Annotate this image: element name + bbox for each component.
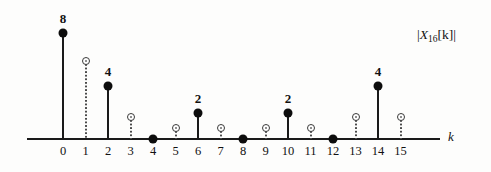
- data-point-value-label: 4: [375, 65, 382, 78]
- x-tick-label: 5: [172, 145, 178, 158]
- x-tick-label: 3: [127, 145, 133, 158]
- dotted-stem: [310, 131, 312, 139]
- filled-circle-marker: [374, 82, 383, 91]
- dotted-stem: [355, 120, 357, 139]
- data-point-value-label: 2: [285, 92, 292, 105]
- open-circle-marker: [127, 113, 135, 121]
- filled-circle-marker: [149, 135, 158, 144]
- filled-circle-marker: [59, 29, 68, 38]
- dotted-stem: [265, 131, 267, 139]
- x-tick-label: 11: [304, 145, 316, 158]
- y-axis-label-bar-right: |: [453, 27, 456, 42]
- open-circle-marker: [397, 113, 405, 121]
- stem: [107, 89, 109, 139]
- stem: [377, 89, 379, 139]
- data-point-value-label: 2: [195, 92, 202, 105]
- x-tick-label: 0: [60, 145, 66, 158]
- filled-circle-marker: [104, 82, 113, 91]
- open-circle-marker: [307, 124, 315, 132]
- data-point-value-label: 4: [105, 65, 112, 78]
- x-tick-label: 6: [195, 145, 201, 158]
- stem: [197, 116, 199, 139]
- filled-circle-marker: [239, 135, 248, 144]
- x-tick-label: 4: [150, 145, 156, 158]
- open-circle-marker: [217, 124, 225, 132]
- x-tick-label: 14: [372, 145, 385, 158]
- dotted-stem: [85, 64, 87, 139]
- dotted-stem: [175, 131, 177, 139]
- open-circle-marker: [172, 124, 180, 132]
- dotted-stem: [400, 120, 402, 139]
- x-tick-label: 7: [217, 145, 223, 158]
- open-circle-marker: [82, 57, 90, 65]
- stem: [287, 116, 289, 139]
- x-tick-label: 10: [282, 145, 295, 158]
- x-tick-label: 13: [349, 145, 362, 158]
- y-axis-label-base: X: [420, 27, 428, 42]
- y-axis-label: |X16[k]|: [417, 28, 456, 44]
- filled-circle-marker: [284, 108, 293, 117]
- data-point-value-label: 8: [60, 12, 67, 25]
- filled-circle-marker: [194, 108, 203, 117]
- open-circle-marker: [352, 113, 360, 121]
- stem: [62, 36, 64, 139]
- y-axis-label-index: [k]: [437, 27, 453, 42]
- x-tick-label: 15: [394, 145, 407, 158]
- x-tick-label: 1: [82, 145, 88, 158]
- x-tick-label: 8: [240, 145, 246, 158]
- x-tick-label: 9: [262, 145, 268, 158]
- open-circle-marker: [262, 124, 270, 132]
- x-axis-label: k: [448, 130, 454, 143]
- filled-circle-marker: [329, 135, 338, 144]
- x-tick-label: 2: [105, 145, 111, 158]
- dotted-stem: [220, 131, 222, 139]
- stem-plot-figure: 84224 0123456789101112131415 k |X16[k]|: [0, 0, 491, 172]
- x-tick-label: 12: [327, 145, 340, 158]
- dotted-stem: [130, 120, 132, 139]
